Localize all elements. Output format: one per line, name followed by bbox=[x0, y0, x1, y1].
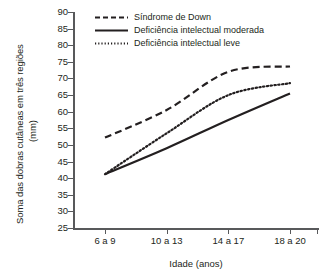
x-tick-label: 10 a 13 bbox=[137, 236, 197, 246]
chart-figure: Soma das dobras cutâneas em três regiões… bbox=[0, 0, 329, 278]
y-tick-label: 30 bbox=[50, 206, 68, 216]
x-tick-mark bbox=[167, 229, 168, 234]
series-line-dashed bbox=[105, 67, 290, 138]
y-tick-label: 65 bbox=[50, 90, 68, 100]
y-tick-label-holder: 90 bbox=[46, 7, 68, 17]
y-tick-label-holder: 75 bbox=[46, 57, 68, 67]
legend-label-mild-id: Deficiência intelectual leve bbox=[134, 37, 240, 49]
legend-item-down-syndrome: Síndrome de Down bbox=[95, 11, 310, 23]
y-tick-label-holder: 85 bbox=[46, 24, 68, 34]
y-tick-label-holder: 45 bbox=[46, 157, 68, 167]
legend-swatch-dotted bbox=[95, 42, 128, 45]
x-tick-label: 18 a 20 bbox=[260, 236, 320, 246]
y-tick-label: 25 bbox=[50, 223, 68, 233]
y-tick-label-holder: 30 bbox=[46, 206, 68, 216]
series-layer bbox=[105, 67, 290, 175]
y-tick-label-holder: 80 bbox=[46, 40, 68, 50]
x-tick-label: 6 a 9 bbox=[75, 236, 135, 246]
y-tick-label: 60 bbox=[50, 107, 68, 117]
legend-item-mild-id: Deficiência intelectual leve bbox=[95, 37, 310, 49]
y-tick-label: 80 bbox=[50, 40, 68, 50]
legend-item-moderate-id: Deficiência intelectual moderada bbox=[95, 24, 310, 36]
y-axis-title-unit: (mm) bbox=[27, 120, 38, 142]
legend-swatch-solid bbox=[95, 29, 128, 32]
y-tick-label: 50 bbox=[50, 140, 68, 150]
y-tick-label-holder: 65 bbox=[46, 90, 68, 100]
y-tick-label-holder: 50 bbox=[46, 140, 68, 150]
y-axis-title: Soma das dobras cutâneas em três regiões… bbox=[0, 0, 46, 240]
legend-label-down-syndrome: Síndrome de Down bbox=[134, 11, 211, 23]
y-tick-label: 70 bbox=[50, 73, 68, 83]
series-line-solid bbox=[105, 93, 290, 174]
y-tick-label: 75 bbox=[50, 57, 68, 67]
y-tick-label-holder: 40 bbox=[46, 173, 68, 183]
y-tick-label: 55 bbox=[50, 123, 68, 133]
y-tick-label-holder: 60 bbox=[46, 107, 68, 117]
y-tick-label: 85 bbox=[50, 24, 68, 34]
legend-label-moderate-id: Deficiência intelectual moderada bbox=[134, 24, 264, 36]
y-tick-label: 90 bbox=[50, 7, 68, 17]
chart-legend: Síndrome de Down Deficiência intelectual… bbox=[95, 11, 310, 50]
y-tick-label-holder: 25 bbox=[46, 223, 68, 233]
series-line-dotted bbox=[105, 83, 290, 174]
legend-swatch-dashed bbox=[95, 16, 128, 19]
x-tick-mark bbox=[105, 229, 106, 234]
y-tick-label: 45 bbox=[50, 157, 68, 167]
y-tick-label-holder: 55 bbox=[46, 123, 68, 133]
y-tick-label-holder: 35 bbox=[46, 190, 68, 200]
y-tick-label: 40 bbox=[50, 173, 68, 183]
y-tick-label-holder: 70 bbox=[46, 73, 68, 83]
x-axis-title: Idade (anos) bbox=[73, 258, 319, 269]
x-tick-mark bbox=[228, 229, 229, 234]
x-axis-end-tick bbox=[317, 229, 318, 234]
x-tick-mark bbox=[290, 229, 291, 234]
y-axis-title-line1: Soma das dobras cutâneas em três regiões bbox=[14, 44, 25, 224]
x-tick-label: 14 a 17 bbox=[198, 236, 258, 246]
y-tick-label: 35 bbox=[50, 190, 68, 200]
